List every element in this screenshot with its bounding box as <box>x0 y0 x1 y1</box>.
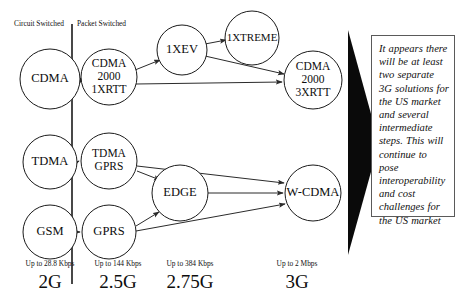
generation-label-2_5g: 2.5G <box>99 271 137 292</box>
generation-labels: Up to 28.8 Kbps2GUp to 144 Kbps2.5GUp to… <box>26 259 318 292</box>
node-wcdma[interactable]: W-CDMA <box>285 165 341 221</box>
rate-label-2_75g: Up to 384 Kbps <box>166 259 213 268</box>
generation-label-2_75g: 2.75G <box>167 271 214 292</box>
node-1xtreme[interactable]: 1XTREME <box>225 11 279 65</box>
node-label-tdma: TDMA <box>32 154 69 168</box>
node-tdma[interactable]: TDMA <box>23 135 77 189</box>
node-label-cdma2000-3x: 2000 <box>302 73 325 85</box>
node-cdma2000-1x[interactable]: CDMA20001XRTT <box>81 49 137 105</box>
column-header-circuit-switched: Circuit Switched <box>14 19 64 28</box>
node-1xev[interactable]: 1XEV <box>157 25 207 75</box>
edge-cdma2000-1x-to-cdma2000-3x <box>136 82 282 84</box>
node-label-cdma2000-1x: 2000 <box>98 70 121 82</box>
generation-label-3g: 3G <box>285 271 309 292</box>
node-label-tdma-gprs: TDMA <box>92 147 127 159</box>
node-cdma2000-3x[interactable]: CDMA20003XRTT <box>284 51 342 109</box>
rate-label-3g: Up to 2 Mbps <box>277 259 318 268</box>
node-label-1xev: 1XEV <box>166 42 198 56</box>
node-edge[interactable]: EDGE <box>152 165 208 221</box>
node-label-cdma: CDMA <box>31 71 69 85</box>
node-label-1xtreme: 1XTREME <box>227 31 278 43</box>
rate-label-2_5g: Up to 144 Kbps <box>94 259 141 268</box>
node-label-edge: EDGE <box>163 185 197 199</box>
node-cdma[interactable]: CDMA <box>20 49 80 109</box>
node-label-tdma-gprs: GPRS <box>95 160 124 172</box>
node-label-cdma2000-1x: CDMA <box>92 57 127 69</box>
edge-cdma2000-1x-to-1xev <box>135 60 160 70</box>
generation-label-2g: 2G <box>38 271 62 292</box>
node-label-cdma2000-3x: 3XRTT <box>295 86 330 98</box>
node-gprs[interactable]: GPRS <box>82 205 136 259</box>
column-header-packet-switched: Packet Switched <box>77 19 126 28</box>
node-gsm[interactable]: GSM <box>23 205 77 259</box>
node-tdma-gprs[interactable]: TDMAGPRS <box>81 133 137 189</box>
node-label-gprs: GPRS <box>93 224 124 238</box>
callout-text: It appears there will be at least two se… <box>379 42 449 227</box>
rate-label-2g: Up to 28.8 Kbps <box>26 259 75 268</box>
node-label-cdma2000-3x: CDMA <box>296 60 331 72</box>
diagram-canvas: Circuit Switched Packet Switched CDMACDM… <box>0 0 459 298</box>
node-layer: CDMACDMA20001XRTT1XEV1XTREMECDMA20003XRT… <box>20 11 342 259</box>
edge-gprs-to-edge <box>136 212 159 226</box>
node-label-gsm: GSM <box>36 224 63 238</box>
callout-box: It appears there will be at least two se… <box>371 35 455 217</box>
node-label-cdma2000-1x: 1XRTT <box>91 83 126 95</box>
edge-1xev-to-1xtreme <box>205 40 226 44</box>
node-label-wcdma: W-CDMA <box>287 185 340 199</box>
